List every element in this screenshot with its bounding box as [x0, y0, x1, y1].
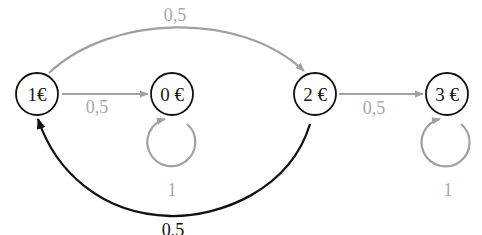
edge-1-to-2-arc: [49, 27, 304, 73]
node-label: 0 €: [160, 84, 184, 105]
node-0-euro: 0 €: [151, 73, 193, 115]
edge-label-1-to-0: 0,5: [86, 97, 109, 117]
edge-label-2-to-1: 0,5: [162, 220, 185, 235]
node-3-euro: 3 €: [426, 73, 468, 115]
edge-label-0-self: 1: [168, 180, 177, 200]
node-label: 3 €: [435, 84, 459, 105]
edge-3-self-loop: [422, 119, 470, 166]
edge-0-self-loop: [147, 119, 195, 166]
node-2-euro: 2 €: [294, 73, 336, 115]
edge-label-2-to-3: 0,5: [363, 98, 386, 118]
edge-label-1-to-2: 0,5: [164, 5, 187, 25]
markov-diagram: 0,5 0,5 1 0,5 1 0,5 1€ 0 € 2 € 3 €: [0, 0, 482, 235]
node-1-euro: 1€: [16, 73, 58, 115]
edge-label-3-self: 1: [444, 180, 453, 200]
node-label: 2 €: [303, 84, 327, 105]
node-label: 1€: [28, 84, 48, 105]
edge-2-to-1-arc: [38, 119, 310, 216]
